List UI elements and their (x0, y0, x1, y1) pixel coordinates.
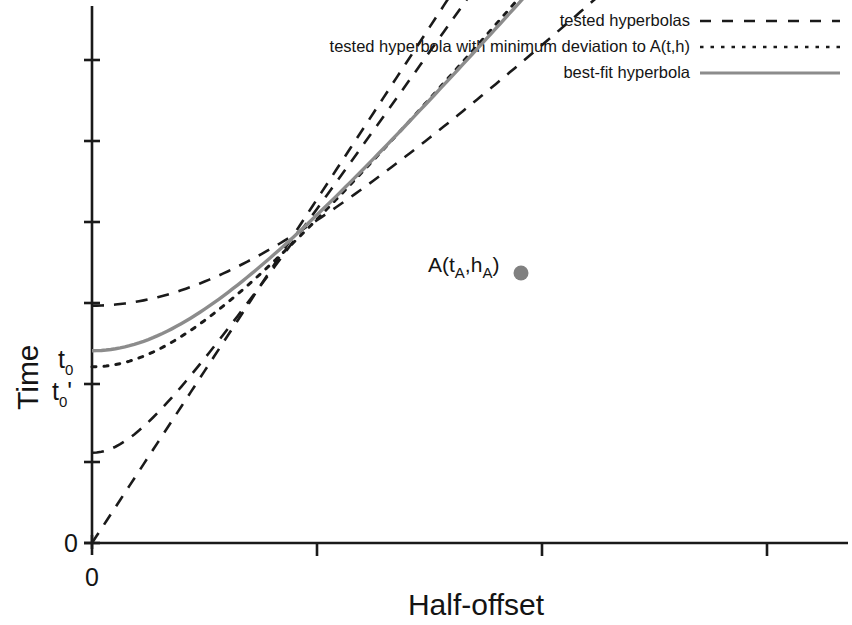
hyperbola-chart: tested hyperbolas tested hyperbola with … (0, 0, 852, 625)
x-tick-label-zero: 0 (85, 563, 99, 591)
legend-label-min-deviation: tested hyperbola with minimum deviation … (330, 37, 690, 55)
x-axis-title: Half-offset (408, 588, 545, 621)
point-A-marker (514, 266, 529, 281)
chart-background (0, 0, 852, 625)
figure-container: tested hyperbolas tested hyperbola with … (0, 0, 852, 625)
y-axis-title: Time (11, 344, 44, 410)
y-tick-label-zero: 0 (64, 529, 78, 557)
legend-label-best-fit: best-fit hyperbola (563, 63, 690, 81)
